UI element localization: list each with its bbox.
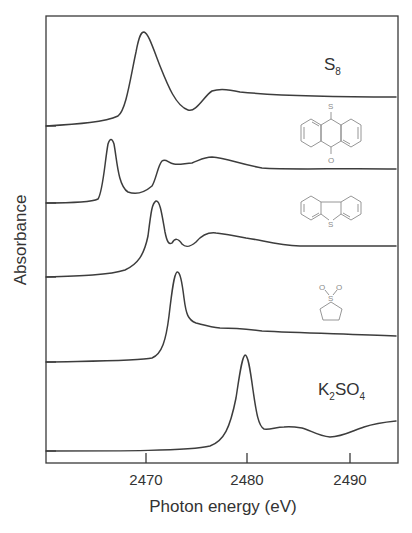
spectrum-dibenzothiophene <box>46 201 396 277</box>
label-k2so4: K2SO4 <box>318 380 365 402</box>
spectrum-k2so4 <box>46 355 396 451</box>
y-axis-title: Absorbance <box>11 195 30 286</box>
y-axis-ticks <box>46 126 56 451</box>
svg-text:O: O <box>319 283 325 292</box>
spectrum-s8 <box>46 32 396 126</box>
x-axis-ticks <box>146 453 350 463</box>
structure-dibenzothiophene: S <box>301 196 361 229</box>
xanes-spectra-chart: 2470 2480 2490 Photon energy (eV) Absorb… <box>0 0 412 533</box>
svg-text:S: S <box>328 294 333 303</box>
x-tick-label-2480: 2480 <box>230 471 263 488</box>
structure-thione: S O <box>301 102 361 165</box>
svg-text:K2SO4: K2SO4 <box>318 380 365 402</box>
structure-sulfolane: O O S <box>319 283 342 320</box>
x-tick-label-2470: 2470 <box>129 471 162 488</box>
spectrum-sulfolane <box>46 272 396 362</box>
svg-text:S8: S8 <box>324 55 341 77</box>
label-s8: S8 <box>324 55 341 77</box>
svg-text:S: S <box>328 220 333 229</box>
x-tick-label-2490: 2490 <box>333 471 366 488</box>
x-axis-title: Photon energy (eV) <box>149 497 296 516</box>
svg-text:O: O <box>328 156 334 165</box>
spectrum-thione <box>46 140 396 204</box>
svg-text:S: S <box>328 102 333 111</box>
